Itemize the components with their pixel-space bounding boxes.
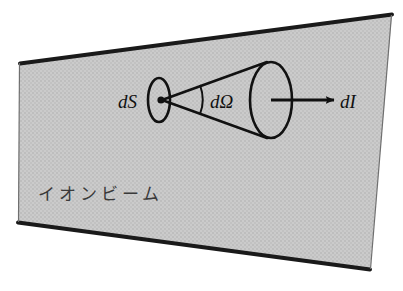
source-area-label: dS [118, 91, 138, 112]
figure-root: dS dΩ dI イオンビーム [0, 0, 403, 291]
solid-angle-label: dΩ [210, 91, 234, 112]
ion-beam-text-label: イオンビーム [38, 184, 163, 204]
ion-beam-diagram-svg: dS dΩ dI イオンビーム [0, 0, 403, 291]
cone-apex-dot [157, 96, 164, 103]
intensity-label: dI [340, 91, 358, 112]
